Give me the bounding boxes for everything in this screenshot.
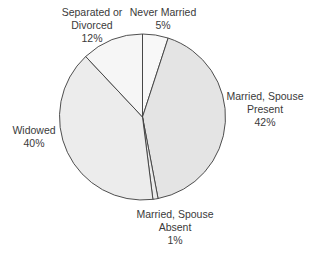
label-value: 12%	[52, 32, 132, 45]
label-value: 5%	[123, 19, 203, 32]
label-never-married: Never Married 5%	[123, 6, 203, 32]
label-line: Married, Spouse	[130, 208, 220, 221]
label-value: 1%	[130, 234, 220, 247]
pie-slices	[59, 34, 225, 200]
label-line: Divorced	[52, 19, 132, 32]
label-married-spouse-present: Married, Spouse Present 42%	[220, 90, 310, 129]
label-line: Absent	[130, 221, 220, 234]
label-value: 42%	[220, 116, 310, 129]
label-separated-or-divorced: Separated or Divorced 12%	[52, 6, 132, 45]
label-value: 40%	[4, 137, 64, 150]
label-line: Present	[220, 103, 310, 116]
label-line: Never Married	[123, 6, 203, 19]
label-widowed: Widowed 40%	[4, 124, 64, 150]
label-line: Married, Spouse	[220, 90, 310, 103]
label-line: Separated or	[52, 6, 132, 19]
label-married-spouse-absent: Married, Spouse Absent 1%	[130, 208, 220, 247]
label-line: Widowed	[4, 124, 64, 137]
